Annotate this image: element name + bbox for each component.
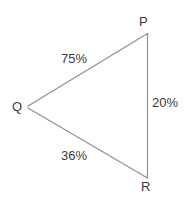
edge-label-qp: 75% bbox=[61, 52, 87, 65]
edge-label-qr: 36% bbox=[61, 149, 87, 162]
edge-line-qp bbox=[28, 34, 148, 107]
triangle-diagram: P Q R 75% 20% 36% bbox=[0, 0, 190, 204]
vertex-label-p: P bbox=[139, 15, 148, 28]
vertex-label-r: R bbox=[141, 180, 150, 193]
vertex-label-q: Q bbox=[12, 100, 22, 113]
edge-line-qr bbox=[28, 108, 148, 178]
edge-label-pr: 20% bbox=[152, 96, 178, 109]
